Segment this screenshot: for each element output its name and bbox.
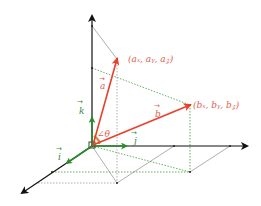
arrow-mark-k: →	[77, 98, 83, 106]
vector-diagram: (aₓ, aᵧ, a𝓏) (bₓ, bᵧ, b𝓏) a → b → ∠θ k →…	[0, 0, 261, 206]
label-point-a: (aₓ, aᵧ, a𝓏)	[128, 54, 174, 64]
tick-x-1	[173, 145, 175, 147]
guide-a-foot-to-x	[117, 146, 174, 183]
diagram-canvas: (aₓ, aᵧ, a𝓏) (bₓ, bᵧ, b𝓏) a → b → ∠θ k →…	[0, 0, 261, 206]
tick-y-1	[51, 171, 53, 173]
label-angle: ∠θ	[97, 129, 111, 139]
tick-b-foot	[189, 171, 191, 173]
tick-z-top	[91, 25, 93, 27]
label-vector-b: b	[155, 109, 161, 119]
guide-z-top-to-a	[92, 26, 117, 59]
tick-x-2	[229, 145, 231, 147]
arrow-mark-a: →	[99, 75, 105, 83]
vector-b	[93, 105, 190, 145]
unit-i-vector	[67, 146, 92, 163]
label-unit-i: i	[58, 152, 61, 162]
guide-b-foot-to-xmark	[190, 146, 230, 172]
tick-z-mid	[91, 67, 93, 69]
label-point-b: (bₓ, bᵧ, b𝓏)	[193, 100, 240, 110]
label-unit-k: k	[79, 106, 84, 116]
arrow-mark-i: →	[56, 145, 62, 153]
guide-z-to-b	[92, 68, 190, 105]
tick-a-foot	[116, 182, 118, 184]
guide-lines-green	[52, 68, 190, 172]
arrow-mark-j: →	[131, 129, 137, 137]
arrow-mark-b: →	[154, 102, 160, 110]
label-unit-j: j	[132, 136, 137, 146]
